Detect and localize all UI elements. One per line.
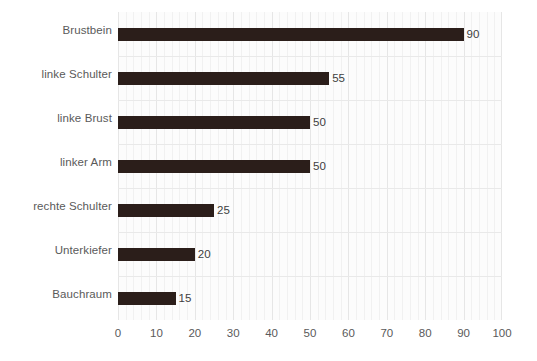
gridline-category-separator xyxy=(118,232,502,233)
gridline-vertical-minor xyxy=(456,12,457,320)
plot-area: 90555050252015 xyxy=(118,12,502,320)
gridline-vertical-minor xyxy=(341,12,342,320)
category-label: Unterkiefer xyxy=(0,244,112,256)
gridline-vertical-major xyxy=(310,12,311,320)
value-axis-tick-labels: 0102030405060708090100 xyxy=(118,327,502,349)
category-label: rechte Schulter xyxy=(0,200,112,212)
gridline-vertical-minor xyxy=(364,12,365,320)
gridline-category-separator xyxy=(118,100,502,101)
gridline-vertical-minor xyxy=(371,12,372,320)
bar xyxy=(118,28,464,41)
bar xyxy=(118,248,195,261)
gridline-vertical-minor xyxy=(494,12,495,320)
bar-value-label: 15 xyxy=(179,292,192,305)
value-tick-label: 80 xyxy=(419,327,432,339)
value-tick-label: 20 xyxy=(188,327,201,339)
bar-value-label: 25 xyxy=(217,204,230,217)
value-tick-label: 10 xyxy=(150,327,163,339)
gridline-vertical-minor xyxy=(448,12,449,320)
bar xyxy=(118,72,329,85)
gridline-vertical-minor xyxy=(356,12,357,320)
gridline-vertical-minor xyxy=(333,12,334,320)
bar-value-label: 50 xyxy=(313,160,326,173)
bar xyxy=(118,160,310,173)
gridline-vertical-major xyxy=(387,12,388,320)
gridline-vertical-minor xyxy=(394,12,395,320)
value-tick-label: 60 xyxy=(342,327,355,339)
gridline-vertical-minor xyxy=(402,12,403,320)
bar xyxy=(118,292,176,305)
gridline-category-separator xyxy=(118,144,502,145)
category-label: linke Brust xyxy=(0,112,112,124)
gridline-vertical-minor xyxy=(487,12,488,320)
gridline-vertical-major xyxy=(501,12,502,320)
category-axis-labels: Brustbeinlinke Schulterlinke Brustlinker… xyxy=(0,12,112,320)
value-tick-label: 0 xyxy=(115,327,121,339)
gridline-category-separator xyxy=(118,188,502,189)
gridline-category-separator xyxy=(118,276,502,277)
value-tick-label: 70 xyxy=(380,327,393,339)
gridline-vertical-minor xyxy=(479,12,480,320)
bar-value-label: 55 xyxy=(332,72,345,85)
gridline-vertical-minor xyxy=(418,12,419,320)
gridline-category-separator xyxy=(118,56,502,57)
category-label: linke Schulter xyxy=(0,68,112,80)
value-tick-label: 40 xyxy=(265,327,278,339)
gridline-vertical-major xyxy=(348,12,349,320)
value-tick-label: 50 xyxy=(304,327,317,339)
gridline-vertical-major xyxy=(464,12,465,320)
category-label: Brustbein xyxy=(0,24,112,36)
gridline-vertical-minor xyxy=(433,12,434,320)
bar-value-label: 50 xyxy=(313,116,326,129)
gridline-vertical-minor xyxy=(471,12,472,320)
gridline-vertical-minor xyxy=(441,12,442,320)
bar-value-label: 20 xyxy=(198,248,211,261)
gridline-vertical-minor xyxy=(379,12,380,320)
gridline-vertical-major xyxy=(425,12,426,320)
value-tick-label: 90 xyxy=(457,327,470,339)
bar-value-label: 90 xyxy=(467,28,480,41)
category-label: linker Arm xyxy=(0,156,112,168)
bar-chart: Brustbeinlinke Schulterlinke Brustlinker… xyxy=(0,0,537,361)
value-tick-label: 30 xyxy=(227,327,240,339)
category-label: Bauchraum xyxy=(0,288,112,300)
value-tick-label: 100 xyxy=(492,327,511,339)
bar xyxy=(118,116,310,129)
bar xyxy=(118,204,214,217)
gridline-vertical-minor xyxy=(410,12,411,320)
